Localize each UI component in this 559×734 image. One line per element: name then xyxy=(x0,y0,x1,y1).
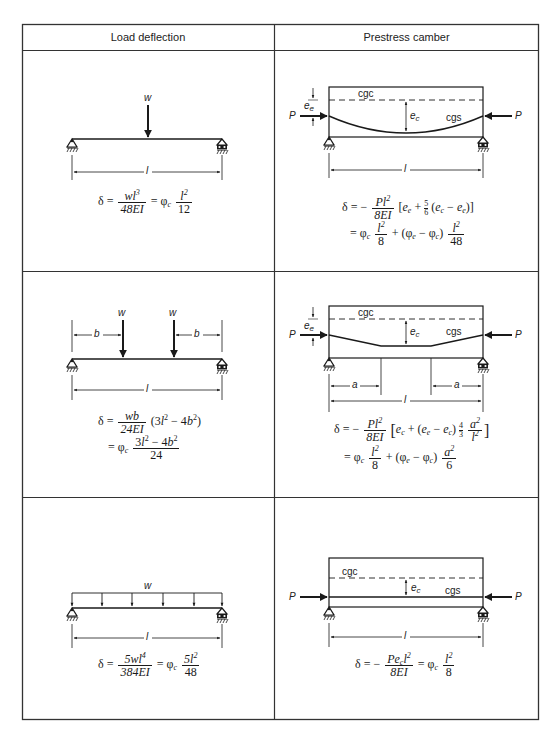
cgc-label: cgc xyxy=(358,88,374,99)
ec-label: ec xyxy=(411,582,421,593)
column-header-prestress-camber: Prestress camber xyxy=(274,24,539,50)
table-grid xyxy=(22,24,539,720)
cgs-label: cgs xyxy=(446,326,462,337)
deflection-camber-table xyxy=(0,0,559,734)
load-label-w-left: w xyxy=(118,307,125,318)
load-label-w-right: w xyxy=(169,307,176,318)
cgs-label: cgs xyxy=(445,585,461,596)
column-header-load-deflection: Load deflection xyxy=(22,24,274,50)
formula-harped-line1: δ = − Pl28EI [ec + (ee − ec) 43 a2l2] xyxy=(334,418,489,443)
cgc-label: cgc xyxy=(358,307,374,318)
formula-two-loads-line2: = φc 3l2 − 4b224 xyxy=(108,436,181,461)
formula-parabolic-line2: = φc l28 + (φe − φc) l248 xyxy=(350,222,466,247)
formula-parabolic-line1: δ = − Pl28EI [ee + 56 (ec − ee)] xyxy=(342,196,474,221)
span-label-l: l xyxy=(146,165,148,176)
load-label-w: w xyxy=(144,92,151,103)
ec-label: ec xyxy=(410,110,420,121)
offset-label-a-right: a xyxy=(454,379,460,390)
span-label-l: l xyxy=(146,383,148,394)
span-label-l: l xyxy=(146,631,148,642)
formula-two-loads-line1: δ = wb24EI (3l2 − 4b2) xyxy=(98,410,201,435)
formula-midspan-load: δ = wl348EI = φc l212 xyxy=(98,190,194,215)
force-label-p-right: P xyxy=(515,591,522,602)
cgc-label: cgc xyxy=(342,566,358,577)
force-label-p-right: P xyxy=(515,110,522,121)
force-label-p-right: P xyxy=(515,329,522,340)
ec-label: ec xyxy=(410,326,420,337)
offset-label-b-left: b xyxy=(94,328,100,339)
ee-label: ee xyxy=(304,320,314,331)
ee-label: ee xyxy=(304,100,314,111)
load-label-w: w xyxy=(144,580,151,591)
force-label-p-left: P xyxy=(289,110,296,121)
formula-uniform-load: δ = 5wl4384EI = φc 5l248 xyxy=(98,653,201,678)
formula-straight-tendon: δ = − Pecl28EI = φc l28 xyxy=(355,653,456,678)
span-label-l: l xyxy=(404,163,406,174)
force-label-p-left: P xyxy=(289,329,296,340)
span-label-l: l xyxy=(404,630,406,641)
offset-label-b-right: b xyxy=(194,328,200,339)
offset-label-a-left: a xyxy=(352,379,358,390)
formula-harped-line2: = φc l28 + (φe − φc) a26 xyxy=(344,446,458,471)
force-label-p-left: P xyxy=(289,591,296,602)
cgs-label: cgs xyxy=(446,112,462,123)
span-label-l: l xyxy=(404,394,406,405)
